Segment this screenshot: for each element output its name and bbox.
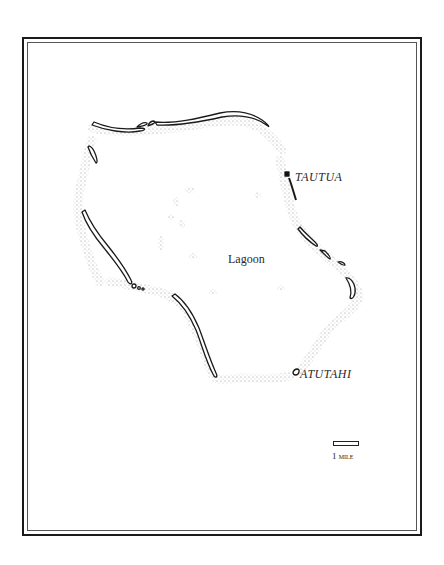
scale-unit: mile	[339, 452, 354, 461]
place-label-atutahi: ATUTAHI	[300, 367, 352, 382]
scale-bar	[333, 441, 359, 446]
reef-stipple	[78, 121, 359, 380]
scale-number: 1	[332, 451, 337, 461]
place-label-tautua: TAUTUA	[295, 170, 342, 185]
islets	[82, 112, 355, 377]
coral-patches	[158, 187, 285, 295]
atoll-map	[0, 0, 444, 565]
scale-label: 1 mile	[332, 451, 353, 461]
lagoon-label: Lagoon	[228, 252, 265, 267]
